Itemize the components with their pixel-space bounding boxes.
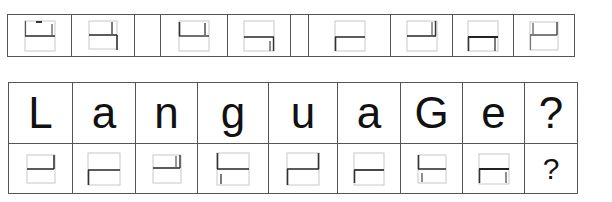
code-glyph-icon [417,153,447,185]
letter-cell: e [463,83,524,143]
letter: L [28,91,52,135]
code-glyph-icon [406,20,438,52]
question-mark: ? [543,154,560,184]
code-glyph-icon [216,152,250,186]
key-code-cell [73,144,135,193]
letter: e [481,91,505,135]
code-cell-5 [309,15,390,57]
code-glyph-icon [178,20,210,52]
letter: u [291,91,315,135]
code-cell-7 [453,15,513,57]
letter-cell: a [73,83,135,143]
code-glyph-icon [467,20,499,52]
key-code-cell [136,144,197,193]
code-cell-4 [228,15,290,57]
code-cell-1 [8,15,71,57]
letter: g [221,91,245,135]
question-mark: ? [539,91,563,135]
code-glyph-icon [23,20,57,52]
code-glyph-icon [334,20,366,52]
key-code-cell [269,144,337,193]
code-cell-8 [514,15,574,57]
letter: a [92,91,116,135]
letter-cell: a [338,83,400,143]
code-glyph-icon [353,152,385,186]
letter-cell-unknown: ? [525,83,577,143]
key-code-cell-unknown: ? [525,144,577,193]
letter: a [357,91,381,135]
letter: G [414,91,448,135]
key-code-cell [463,144,524,193]
code-cell-2 [72,15,134,57]
letter-cell: g [198,83,268,143]
letter-cell: n [136,83,197,143]
key-code-cell [9,144,72,193]
code-glyph-icon [286,152,320,186]
code-cell-3 [161,15,227,57]
letter-cell: G [401,83,462,143]
code-cell-empty [135,15,160,57]
code-glyph-icon [529,20,559,52]
code-glyph-icon [87,152,121,186]
letter: n [154,91,178,135]
code-glyph-icon [152,153,182,185]
code-glyph-icon [243,20,275,52]
code-cell-6 [391,15,452,57]
code-glyph-icon [26,153,56,185]
key-code-cell [401,144,462,193]
letter-cell: L [9,83,72,143]
letter-cell: u [269,83,337,143]
key-code-cell [338,144,400,193]
key-code-cell [198,144,268,193]
code-glyph-icon [478,153,510,185]
code-glyph-icon [88,20,118,52]
code-cell-empty [291,15,308,57]
